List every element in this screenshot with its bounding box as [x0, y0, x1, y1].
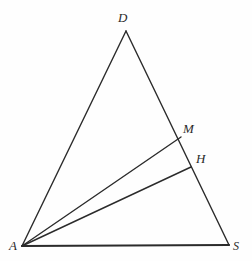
vertex-label-s: S [233, 240, 239, 253]
vertex-label-a: A [9, 239, 17, 252]
cevian-AM [22, 137, 181, 246]
cevian-AH [22, 167, 191, 246]
side-AS [22, 245, 229, 246]
geometry-figure: D M H A S [0, 0, 252, 261]
vertex-label-d: D [118, 11, 127, 24]
figure-canvas [0, 0, 252, 261]
vertex-label-m: M [183, 122, 194, 135]
vertex-label-h: H [196, 152, 205, 165]
side-DS [126, 31, 229, 245]
side-AD [22, 31, 126, 246]
